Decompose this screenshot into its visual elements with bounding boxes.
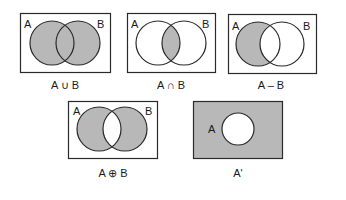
caption-difference: A – B <box>258 79 284 91</box>
venn-diagrams: A B A ∪ B A B A ∩ B A B A – B A B A ⊕ B <box>0 0 346 200</box>
caption-symmetric-difference: A ⊕ B <box>98 167 127 179</box>
caption-intersection: A ∩ B <box>157 79 185 91</box>
set-a-label: A <box>131 18 139 30</box>
set-a-label: A <box>208 123 216 135</box>
set-a-circle <box>222 113 254 145</box>
set-a-label: A <box>24 18 32 30</box>
diagram-symmetric-difference: A B A ⊕ B <box>69 102 158 180</box>
set-a-label: A <box>73 105 81 117</box>
diagram-difference: A B A – B <box>229 15 317 92</box>
caption-union: A ∪ B <box>51 79 79 91</box>
set-b-label: B <box>202 18 209 30</box>
diagram-intersection: A B A ∩ B <box>128 14 216 92</box>
diagram-union: A B A ∪ B <box>21 14 111 92</box>
caption-complement: A' <box>233 167 242 179</box>
set-b-label: B <box>303 20 310 32</box>
set-a-label: A <box>232 20 240 32</box>
set-b-label: B <box>145 105 152 117</box>
set-b-label: B <box>97 18 104 30</box>
diagram-complement: A A' <box>194 102 283 180</box>
